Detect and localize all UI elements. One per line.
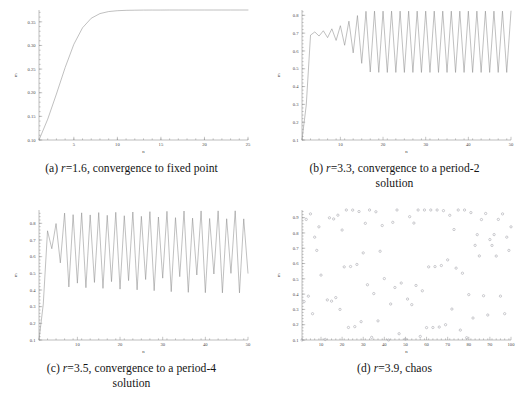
data-point	[444, 324, 446, 326]
x-tick-label: 20	[118, 342, 123, 347]
axes	[302, 210, 511, 340]
axes	[302, 10, 511, 140]
x-tick-label: 5	[73, 142, 76, 147]
data-point	[447, 259, 449, 261]
data-point	[320, 274, 322, 276]
x-tick-label: 20	[202, 142, 207, 147]
y-tick-label: 0.20	[27, 90, 36, 95]
y-tick-label: 0.3	[293, 307, 299, 312]
data-point	[371, 336, 373, 338]
data-point	[491, 244, 493, 246]
x-tick-label: 10	[75, 342, 80, 347]
x-axis-label: n	[405, 149, 408, 154]
y-tick-label: 0.25	[27, 67, 36, 72]
panel-a-caption: (a) r=1.6, convergence to fixed point	[9, 162, 254, 177]
data-point	[459, 329, 461, 331]
data-line	[39, 10, 248, 140]
data-point	[347, 326, 349, 328]
y-tick-label: 0.7	[30, 238, 36, 243]
data-point	[432, 326, 434, 328]
x-ticks: 102030405060708090100	[319, 337, 515, 347]
x-axis-label: n	[142, 349, 145, 354]
y-tick-label: 0.6	[293, 49, 299, 54]
data-point	[352, 209, 354, 211]
y-tick-label: 0.3	[30, 304, 36, 309]
data-point	[360, 321, 362, 323]
data-point	[314, 236, 316, 238]
data-point	[428, 266, 430, 268]
y-tick-label: 0.8	[30, 221, 36, 226]
x-tick-label: 10	[319, 342, 324, 347]
x-tick-label: 40	[382, 342, 387, 347]
data-point	[366, 284, 368, 286]
panel-c-caption-prefix: (c)	[47, 362, 63, 375]
data-point	[358, 210, 360, 212]
data-point	[440, 264, 442, 266]
data-point	[474, 244, 476, 246]
x-tick-label: 60	[424, 342, 429, 347]
data-point	[375, 211, 377, 213]
data-point	[430, 209, 432, 211]
panel-d: 1020304050607080901000.10.20.30.40.50.60…	[263, 200, 526, 401]
x-tick-label: 30	[423, 142, 428, 147]
data-point	[396, 209, 398, 211]
data-point	[453, 228, 455, 230]
data-point	[485, 212, 487, 214]
data-point	[343, 266, 345, 268]
y-axis-label: m	[13, 73, 18, 77]
data-line	[39, 211, 248, 340]
y-ticks: 0.10.20.30.40.50.60.70.80.9	[293, 212, 305, 343]
x-tick-label: 15	[159, 142, 164, 147]
data-point	[470, 211, 472, 213]
panel-b-caption-prefix: (b)	[309, 162, 326, 175]
data-point	[400, 282, 402, 284]
x-tick-label: 30	[361, 342, 366, 347]
data-point	[480, 218, 482, 220]
x-tick-label: 80	[466, 342, 471, 347]
data-point	[419, 335, 421, 337]
data-point	[337, 214, 339, 216]
y-tick-label: 0.7	[293, 31, 299, 36]
y-tick-label: 0.30	[27, 43, 36, 48]
chart-a: 5101520250.100.150.200.250.300.35nm	[9, 2, 254, 162]
panel-c: 10203040500.10.20.30.40.50.60.70.8nm (c)…	[0, 200, 263, 401]
data-point	[413, 222, 415, 224]
data-point	[455, 267, 457, 269]
y-axis-label: m	[13, 273, 18, 277]
data-point	[330, 300, 332, 302]
y-axis-label: m	[276, 73, 281, 77]
panel-b-caption-rest: =3.3, convergence to a period-2	[331, 162, 480, 175]
data-point	[497, 218, 499, 220]
data-point	[303, 300, 305, 302]
data-point	[383, 277, 385, 279]
data-point	[425, 326, 427, 328]
figure-container: 5101520250.100.150.200.250.300.35nm (a) …	[0, 0, 526, 401]
panel-c-caption: (c) r=3.5, convergence to a period-4 sol…	[9, 362, 254, 391]
x-tick-label: 30	[160, 342, 165, 347]
scatter-points	[301, 209, 512, 341]
y-tick-label: 0.2	[30, 321, 36, 326]
x-tick-label: 20	[381, 142, 386, 147]
data-point	[311, 313, 313, 315]
data-point	[489, 238, 491, 240]
data-point	[379, 250, 381, 252]
data-point	[381, 224, 383, 226]
data-point	[390, 303, 392, 305]
data-point	[476, 233, 478, 235]
panel-d-caption-prefix: (d)	[357, 362, 374, 375]
data-point	[377, 320, 379, 322]
panel-c-caption-rest: =3.5, convergence to a period-4	[67, 362, 216, 375]
x-tick-label: 100	[508, 342, 516, 347]
panel-a-plot: 5101520250.100.150.200.250.300.35nm	[9, 2, 254, 162]
x-tick-label: 40	[203, 342, 208, 347]
panel-d-plot: 1020304050607080901000.10.20.30.40.50.60…	[272, 202, 517, 362]
panel-b-caption-line2: solution	[272, 177, 517, 192]
y-tick-label: 0.3	[293, 102, 299, 107]
data-point	[506, 236, 508, 238]
y-tick-label: 0.7	[293, 246, 299, 251]
axes	[39, 10, 248, 140]
data-point	[335, 296, 337, 298]
x-tick-label: 10	[338, 142, 343, 147]
data-point	[305, 218, 307, 220]
x-ticks: 1020304050	[75, 337, 251, 347]
